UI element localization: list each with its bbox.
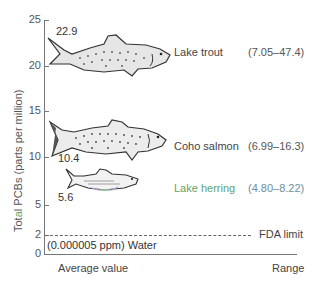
y-axis-label: Total PCBs (parts per million) — [12, 90, 24, 232]
herring-value: 5.6 — [58, 191, 73, 203]
tick-label-15: 15 — [27, 104, 41, 116]
salmon-name: Coho salmon — [174, 140, 239, 152]
salmon-range: (6.99–16.3) — [248, 140, 304, 152]
tick-label-2: 2 — [27, 228, 41, 240]
herring-range: (4.80–8.22) — [248, 182, 304, 194]
lake-trout-icon — [46, 32, 174, 82]
tick-label-10: 10 — [27, 150, 41, 162]
fda-limit-label: FDA limit — [259, 228, 303, 240]
tick-label-0: 0 — [27, 247, 41, 259]
tick-label-25: 25 — [27, 13, 41, 25]
tick-25 — [44, 20, 49, 21]
tick-label-5: 5 — [27, 198, 41, 210]
trout-name: Lake trout — [174, 46, 223, 58]
trout-range: (7.05–47.4) — [248, 46, 304, 58]
tick-label-20: 20 — [27, 59, 41, 71]
water-label: (0.000005 ppm) Water — [47, 239, 157, 251]
y-axis-line — [44, 20, 45, 255]
fda-limit-line — [45, 235, 251, 236]
tick-5 — [44, 205, 49, 206]
range-label: Range — [272, 262, 304, 274]
herring-name: Lake herring — [174, 182, 235, 194]
average-value-label: Average value — [58, 262, 128, 274]
lake-herring-icon — [64, 166, 144, 196]
salmon-value: 10.4 — [58, 152, 79, 164]
x-axis-line — [44, 254, 297, 255]
tick-15 — [44, 111, 49, 112]
